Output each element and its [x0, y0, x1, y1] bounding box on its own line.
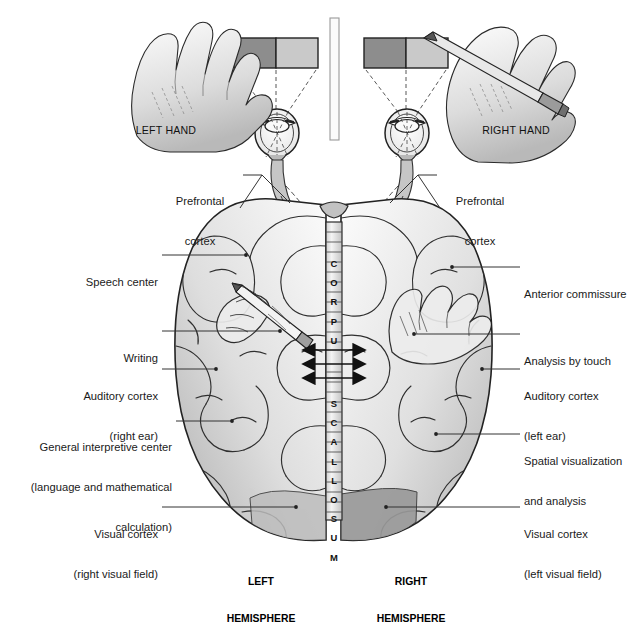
- corpus-callosum-letter: O: [327, 277, 341, 288]
- label-line: Prefrontal: [160, 195, 240, 208]
- caption-line: HEMISPHERE: [364, 613, 458, 625]
- label-line: (language and mathematical: [10, 481, 172, 494]
- corpus-callosum-letter: O: [327, 494, 341, 505]
- label-line: Auditory cortex: [524, 390, 636, 403]
- label-prefrontal-cortex-right: Prefrontal cortex: [440, 168, 520, 262]
- corpus-callosum-letter: L: [327, 456, 341, 467]
- corpus-callosum-letter: S: [327, 398, 341, 409]
- label-line: Anterior commissure: [524, 288, 636, 301]
- label-line: Spatial visualization: [524, 455, 636, 468]
- corpus-callosum-letter: L: [327, 475, 341, 486]
- central-screen-divider: [330, 18, 339, 140]
- corpus-callosum-letter: A: [327, 436, 341, 447]
- label-line: cortex: [160, 235, 240, 248]
- label-line: Prefrontal: [440, 195, 520, 208]
- label-line: (right visual field): [48, 568, 158, 581]
- right-hemisphere-caption: RIGHT HEMISPHERE: [364, 551, 458, 626]
- right-hand-with-pen-illustration: [424, 27, 575, 163]
- label-speech-center: Speech center: [60, 249, 158, 303]
- left-hand-caption: LEFT HAND: [118, 124, 214, 136]
- label-visual-cortex-right-visual-field: Visual cortex (right visual field): [48, 501, 158, 595]
- label-line: Visual cortex: [48, 528, 158, 541]
- corpus-callosum-letter: U: [327, 532, 341, 543]
- corpus-callosum-letter: R: [327, 296, 341, 307]
- right-eye: [385, 109, 429, 162]
- caption-line: LEFT: [214, 576, 308, 588]
- corpus-callosum-letter: U: [327, 335, 341, 346]
- corpus-callosum-letter: C: [327, 258, 341, 269]
- corpus-callosum-letter: M: [327, 552, 341, 563]
- label-line: Speech center: [60, 276, 158, 289]
- caption-line: HEMISPHERE: [214, 613, 308, 625]
- label-anterior-commissure: Anterior commissure: [524, 261, 636, 315]
- corpus-callosum-letter: C: [327, 417, 341, 428]
- label-prefrontal-cortex-left: Prefrontal cortex: [160, 168, 240, 262]
- corpus-callosum-letter: S: [327, 513, 341, 524]
- right-hand-caption: RIGHT HAND: [466, 124, 566, 136]
- caption-line: RIGHT: [364, 576, 458, 588]
- label-line: cortex: [440, 235, 520, 248]
- label-visual-cortex-left-visual-field: Visual cortex (left visual field): [524, 501, 636, 595]
- left-hemisphere-caption: LEFT HEMISPHERE: [214, 551, 308, 626]
- label-line: General interpretive center: [10, 441, 172, 454]
- label-line: (left visual field): [524, 568, 636, 581]
- label-line: Auditory cortex: [42, 390, 158, 403]
- corpus-callosum-letter: P: [327, 316, 341, 327]
- label-line: Visual cortex: [524, 528, 636, 541]
